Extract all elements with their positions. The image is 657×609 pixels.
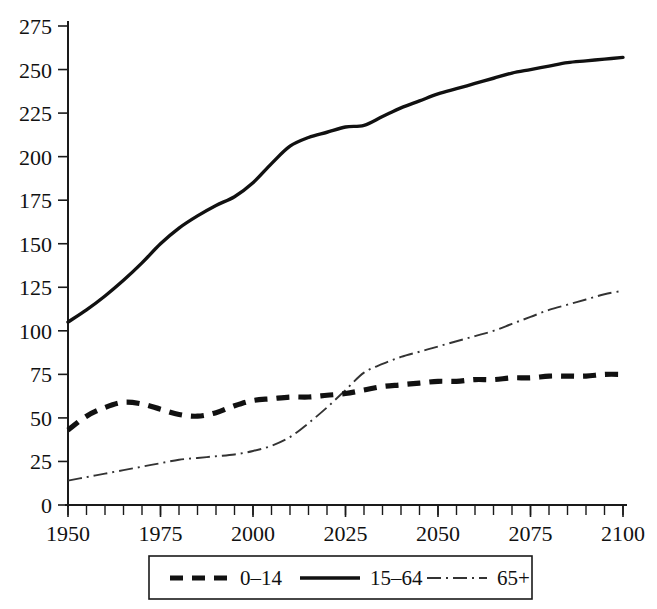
y-tick-label-0: 0 (41, 493, 52, 518)
x-axis-ticks (68, 505, 623, 517)
x-tick-label-2000: 2000 (231, 521, 275, 546)
y-axis-tick-labels: 0255075100125150175200225250275 (19, 14, 52, 518)
y-tick-label-275: 275 (19, 14, 52, 39)
y-tick-label-75: 75 (30, 362, 52, 387)
legend-label-2: 65+ (497, 566, 530, 590)
x-tick-label-2100: 2100 (601, 521, 645, 546)
chart-canvas: 0255075100125150175200225250275 19501975… (0, 0, 657, 609)
y-tick-label-250: 250 (19, 58, 52, 83)
series-line-15-64 (68, 57, 623, 322)
y-tick-label-200: 200 (19, 145, 52, 170)
y-axis: 0255075100125150175200225250275 (19, 14, 68, 518)
legend-label-0: 0–14 (240, 566, 283, 590)
series-line-0-14 (68, 374, 623, 430)
y-tick-label-25: 25 (30, 449, 52, 474)
x-tick-label-2075: 2075 (509, 521, 553, 546)
y-axis-ticks (58, 26, 68, 505)
x-tick-label-2050: 2050 (416, 521, 460, 546)
y-tick-label-225: 225 (19, 101, 52, 126)
x-tick-label-1950: 1950 (46, 521, 90, 546)
chart-legend: 0–1415–6465+ (149, 556, 532, 599)
y-tick-label-175: 175 (19, 188, 52, 213)
x-axis-tick-labels: 1950197520002025205020752100 (46, 521, 645, 546)
y-tick-label-150: 150 (19, 232, 52, 257)
series-line-65plus (68, 291, 623, 481)
x-axis: 1950197520002025205020752100 (46, 505, 645, 546)
y-tick-label-100: 100 (19, 319, 52, 344)
legend-label-1: 15–64 (370, 566, 423, 590)
data-series-group (68, 57, 623, 480)
x-tick-label-1975: 1975 (139, 521, 183, 546)
y-tick-label-125: 125 (19, 275, 52, 300)
population-age-group-line-chart: 0255075100125150175200225250275 19501975… (0, 0, 657, 609)
y-tick-label-50: 50 (30, 406, 52, 431)
x-tick-label-2025: 2025 (324, 521, 368, 546)
